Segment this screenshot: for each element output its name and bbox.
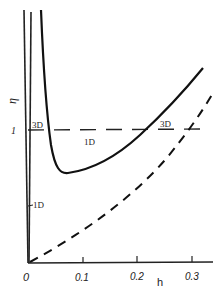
annotation-1d-mid: 1D bbox=[84, 137, 96, 147]
series-3d-solid bbox=[41, 10, 203, 173]
y-tick-label-1: 1 bbox=[11, 125, 16, 136]
y-axis bbox=[24, 10, 28, 263]
series-1d-dashed bbox=[30, 93, 213, 262]
x-axis-label: h bbox=[157, 276, 163, 288]
x-tick-label-0.3: 0.3 bbox=[185, 271, 199, 282]
x-tick-label-0.1: 0.1 bbox=[75, 272, 89, 283]
annotation-3d-right: 3D bbox=[160, 119, 172, 129]
x-tick-label-0: 0 bbox=[23, 271, 30, 283]
series-eta-1 bbox=[28, 129, 210, 130]
annotation-1d-low: 1D bbox=[33, 200, 45, 210]
x-axis bbox=[28, 262, 213, 263]
y-axis-label: η bbox=[5, 98, 19, 104]
chart: 0 0.1 0.2 0.3 h 1 η 3D 1D 3D 1D bbox=[0, 0, 219, 292]
series-1d-vertical bbox=[29, 12, 31, 263]
x-tick-label-0.2: 0.2 bbox=[130, 271, 144, 282]
annotation-3d-left: 3D bbox=[32, 120, 44, 130]
